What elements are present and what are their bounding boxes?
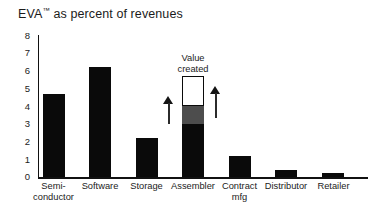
annotation-value-created: Value created [160,53,226,75]
y-tick-label-4: 4 [8,102,30,112]
x-label-line-2: conductor [21,192,86,203]
bar-assembler-value-created-segment [182,76,204,106]
bar-assembler [182,76,204,177]
up-arrow-icon-right [210,86,221,118]
bar-assembler-actual-segment [182,124,204,177]
annotation-value-created-line-1: Value [160,53,226,64]
bar-assembler-gray-segment [182,106,204,124]
bar-distributor [275,170,297,177]
bar-contract-mfg [229,156,251,177]
y-tick-label-5: 5 [8,84,30,94]
y-tick-label-6: 6 [8,66,30,76]
y-tick-label-1: 1 [8,155,30,165]
y-tick-label-2: 2 [8,137,30,147]
annotation-value-created-line-2: created [160,64,226,75]
chart-container: EVA™ as percent of revenues 8 7 6 5 4 3 … [0,0,373,212]
y-tick-label-3: 3 [8,119,30,129]
x-axis-label-retailer: Retailer [305,181,362,192]
y-tick-label-7: 7 [8,48,30,58]
arrow-shaft-right [215,93,217,118]
x-label-line-2: mfg [211,192,268,203]
up-arrow-icon-left [163,96,174,124]
bar-software [89,67,111,177]
bar-storage [136,138,158,177]
x-axis-line [38,177,368,179]
plot-area: 8 7 6 5 4 3 2 1 0 Value created [0,0,373,212]
bar-retailer [322,173,344,177]
y-tick-label-8: 8 [8,31,30,41]
x-label-line-1: Retailer [305,181,362,192]
bar-semiconductor [43,94,65,177]
y-axis-line [38,35,39,178]
arrow-shaft-left [168,103,170,124]
